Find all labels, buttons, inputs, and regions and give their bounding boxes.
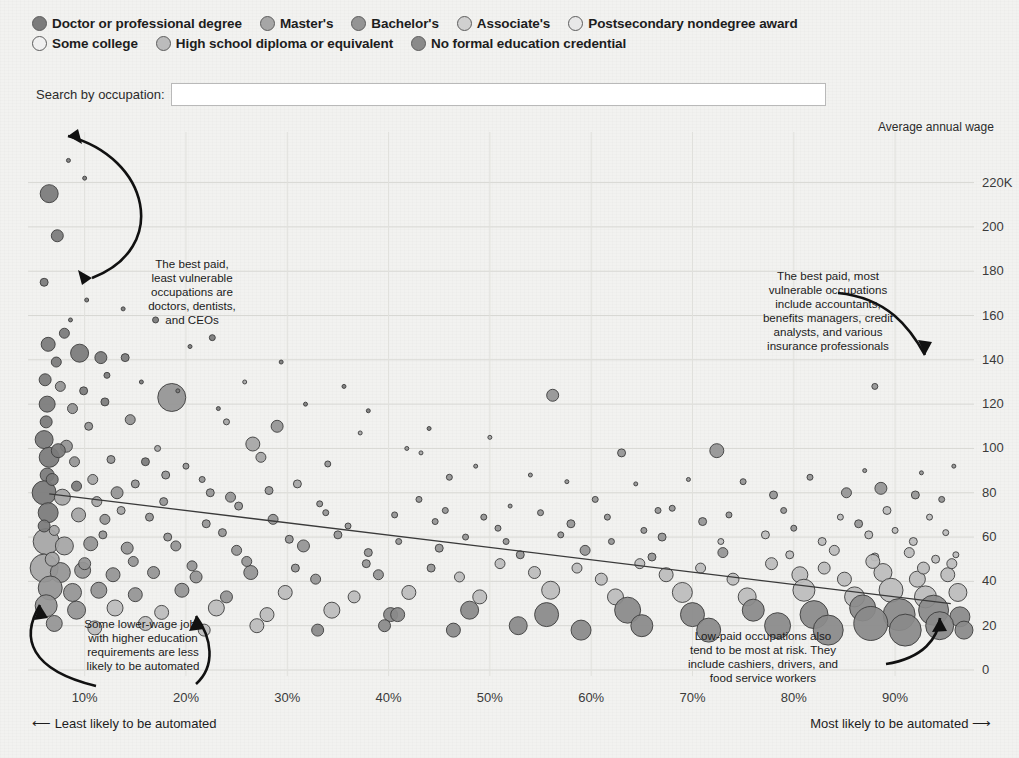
data-point-bubble[interactable] bbox=[542, 581, 560, 599]
data-point-bubble[interactable] bbox=[889, 614, 921, 646]
data-point-bubble[interactable] bbox=[334, 531, 342, 539]
data-point-bubble[interactable] bbox=[125, 415, 135, 425]
data-point-bubble[interactable] bbox=[648, 553, 656, 561]
data-point-bubble[interactable] bbox=[271, 420, 283, 432]
data-point-bubble[interactable] bbox=[953, 552, 959, 558]
data-point-bubble[interactable] bbox=[503, 539, 509, 545]
data-point-bubble[interactable] bbox=[49, 525, 59, 535]
data-point-bubble[interactable] bbox=[710, 444, 724, 458]
data-point-bubble[interactable] bbox=[419, 451, 423, 455]
data-point-bubble[interactable] bbox=[265, 487, 273, 495]
data-point-bubble[interactable] bbox=[488, 435, 492, 439]
data-point-bubble[interactable] bbox=[770, 491, 778, 499]
data-point-bubble[interactable] bbox=[766, 558, 778, 570]
data-point-bubble[interactable] bbox=[41, 337, 55, 351]
data-point-bubble[interactable] bbox=[243, 380, 247, 384]
data-point-bubble[interactable] bbox=[38, 520, 50, 532]
data-point-bubble[interactable] bbox=[604, 514, 610, 520]
data-point-bubble[interactable] bbox=[872, 383, 878, 389]
data-point-bubble[interactable] bbox=[672, 582, 692, 602]
data-point-bubble[interactable] bbox=[107, 456, 115, 464]
data-point-bubble[interactable] bbox=[726, 512, 732, 518]
data-point-bubble[interactable] bbox=[342, 384, 346, 388]
data-point-bubble[interactable] bbox=[297, 540, 309, 552]
legend-item-high-school[interactable]: High school diploma or equivalent bbox=[156, 36, 393, 51]
data-point-bubble[interactable] bbox=[85, 422, 93, 430]
data-point-bubble[interactable] bbox=[669, 505, 675, 511]
data-point-bubble[interactable] bbox=[837, 514, 843, 520]
data-point-bubble[interactable] bbox=[209, 335, 215, 341]
data-point-bubble[interactable] bbox=[631, 615, 653, 637]
data-point-bubble[interactable] bbox=[528, 473, 532, 477]
data-point-bubble[interactable] bbox=[909, 538, 917, 546]
data-point-bubble[interactable] bbox=[373, 570, 383, 580]
data-point-bubble[interactable] bbox=[216, 407, 220, 411]
data-point-bubble[interactable] bbox=[117, 506, 125, 514]
data-point-bubble[interactable] bbox=[145, 513, 153, 521]
data-point-bubble[interactable] bbox=[718, 548, 728, 558]
data-point-bubble[interactable] bbox=[39, 374, 51, 386]
data-point-bubble[interactable] bbox=[223, 419, 229, 425]
data-point-bubble[interactable] bbox=[220, 591, 232, 603]
data-point-bubble[interactable] bbox=[392, 512, 398, 518]
data-point-bubble[interactable] bbox=[70, 457, 80, 467]
data-point-bubble[interactable] bbox=[38, 503, 58, 523]
data-point-bubble[interactable] bbox=[427, 427, 431, 431]
data-point-bubble[interactable] bbox=[396, 539, 402, 545]
data-point-bubble[interactable] bbox=[911, 491, 919, 499]
data-point-bubble[interactable] bbox=[427, 564, 435, 572]
data-point-bubble[interactable] bbox=[235, 502, 243, 510]
data-point-bubble[interactable] bbox=[635, 559, 645, 569]
data-point-bubble[interactable] bbox=[323, 510, 329, 516]
data-point-bubble[interactable] bbox=[84, 537, 98, 551]
data-point-bubble[interactable] bbox=[226, 492, 236, 502]
data-point-bubble[interactable] bbox=[260, 608, 274, 622]
data-point-bubble[interactable] bbox=[202, 520, 210, 528]
data-point-bubble[interactable] bbox=[580, 545, 590, 555]
data-point-bubble[interactable] bbox=[80, 387, 88, 395]
data-point-bubble[interactable] bbox=[160, 498, 168, 506]
data-point-bubble[interactable] bbox=[51, 230, 63, 242]
data-point-bubble[interactable] bbox=[416, 496, 422, 502]
data-point-bubble[interactable] bbox=[72, 508, 86, 522]
data-point-bubble[interactable] bbox=[932, 555, 940, 563]
data-point-bubble[interactable] bbox=[435, 544, 443, 552]
data-point-bubble[interactable] bbox=[199, 476, 205, 482]
data-point-bubble[interactable] bbox=[121, 542, 133, 554]
data-point-bubble[interactable] bbox=[658, 533, 666, 541]
data-point-bubble[interactable] bbox=[95, 352, 107, 364]
data-point-bubble[interactable] bbox=[481, 514, 487, 520]
data-point-bubble[interactable] bbox=[188, 345, 192, 349]
data-point-bubble[interactable] bbox=[91, 582, 107, 598]
data-point-bubble[interactable] bbox=[250, 619, 264, 633]
data-point-bubble[interactable] bbox=[572, 563, 582, 573]
data-point-bubble[interactable] bbox=[278, 585, 292, 599]
data-point-bubble[interactable] bbox=[855, 520, 863, 528]
data-point-bubble[interactable] bbox=[943, 530, 949, 536]
data-point-bubble[interactable] bbox=[164, 533, 172, 541]
data-point-bubble[interactable] bbox=[941, 568, 955, 582]
data-point-bubble[interactable] bbox=[495, 559, 505, 569]
data-point-bubble[interactable] bbox=[528, 567, 540, 579]
data-point-bubble[interactable] bbox=[317, 501, 323, 507]
data-point-bubble[interactable] bbox=[791, 525, 797, 531]
data-point-bubble[interactable] bbox=[46, 615, 62, 631]
data-point-bubble[interactable] bbox=[206, 489, 214, 497]
data-point-bubble[interactable] bbox=[155, 445, 161, 451]
data-point-bubble[interactable] bbox=[153, 317, 159, 323]
data-point-bubble[interactable] bbox=[79, 558, 91, 570]
data-point-bubble[interactable] bbox=[45, 552, 59, 566]
data-point-bubble[interactable] bbox=[696, 563, 706, 573]
data-point-bubble[interactable] bbox=[324, 602, 340, 618]
data-point-bubble[interactable] bbox=[51, 444, 65, 458]
data-point-bubble[interactable] bbox=[99, 531, 107, 539]
data-point-bubble[interactable] bbox=[865, 531, 873, 539]
data-point-bubble[interactable] bbox=[40, 416, 52, 428]
data-point-bubble[interactable] bbox=[101, 398, 109, 406]
data-point-bubble[interactable] bbox=[793, 579, 815, 601]
data-point-bubble[interactable] bbox=[139, 380, 143, 384]
data-point-bubble[interactable] bbox=[927, 514, 933, 520]
data-point-bubble[interactable] bbox=[59, 328, 69, 338]
data-point-bubble[interactable] bbox=[246, 437, 260, 451]
data-point-bubble[interactable] bbox=[391, 608, 405, 622]
